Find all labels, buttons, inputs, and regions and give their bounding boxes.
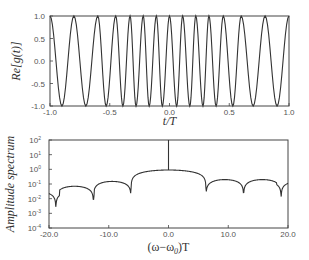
top-y-tick-label: 1.0 — [34, 12, 46, 21]
bottom-x-axis-title: (ω−ω0)T — [148, 240, 191, 256]
top-y-tick-label: 0.5 — [34, 35, 46, 44]
top-x-tick-label: -0.5 — [103, 108, 117, 117]
bottom-y-tick-label: 10-2 — [28, 194, 42, 204]
top-y-tick-label: 0.0 — [34, 57, 46, 66]
bottom-x-tick-label: 20.0 — [280, 230, 296, 239]
bottom-y-axis-title: Amplitude spectrum — [3, 136, 17, 234]
top-x-tick-label: 1.0 — [283, 108, 295, 117]
bottom-y-tick-label: 101 — [29, 150, 41, 160]
bottom-x-tick-label: -20.0 — [40, 230, 59, 239]
spectrum-chart: -20.0-10.00.010.020.010-410-310-210-1100… — [3, 135, 296, 256]
bottom-y-tick-label: 100 — [29, 164, 41, 174]
bottom-y-tick-label: 10-3 — [28, 208, 42, 218]
amplitude-spectrum-curve — [49, 170, 288, 207]
bottom-y-tick-label: 102 — [29, 135, 41, 145]
bottom-y-tick-label: 10-1 — [28, 179, 42, 189]
top-x-tick-label: 0.5 — [224, 108, 236, 117]
bottom-x-tick-label: 10.0 — [220, 230, 236, 239]
top-plot-frame — [50, 16, 289, 106]
figure: -1.0-0.50.00.51.0-1.0-0.50.00.51.0 t/T R… — [0, 0, 309, 260]
top-y-tick-label: -0.5 — [31, 80, 45, 89]
bottom-x-tick-label: -10.0 — [100, 230, 119, 239]
re-g-curve — [50, 16, 289, 106]
time-domain-chart: -1.0-0.50.00.51.0-1.0-0.50.00.51.0 t/T R… — [9, 12, 295, 128]
top-x-tick-label: -1.0 — [43, 108, 57, 117]
top-y-tick-label: -1.0 — [31, 102, 45, 111]
bottom-x-tick-label: 0.0 — [163, 230, 175, 239]
top-x-axis-title: t/T — [163, 114, 178, 128]
top-y-axis-title: Re[g(t)] — [9, 41, 23, 82]
